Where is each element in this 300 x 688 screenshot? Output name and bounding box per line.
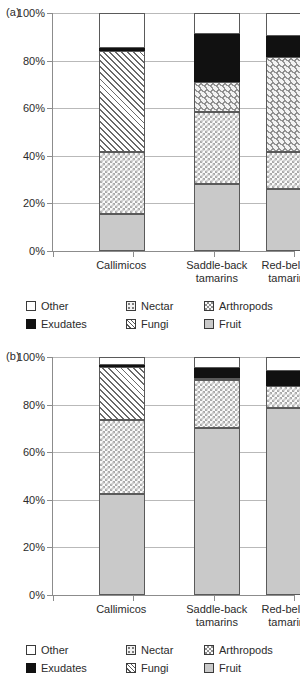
bar-segment-exudates[interactable] — [99, 48, 145, 52]
y-axis-tick — [47, 357, 53, 358]
legend-item-fruit[interactable]: Fruit — [204, 315, 288, 333]
y-axis-tick — [47, 156, 53, 157]
stacked-bar[interactable] — [99, 357, 145, 595]
bar-segment-fungi[interactable] — [99, 51, 145, 152]
legend-item-nectar[interactable]: Nectar — [126, 641, 204, 659]
bar-segment-fungi[interactable] — [99, 367, 145, 421]
x-axis-category-label-line: tamarins — [244, 616, 300, 629]
y-axis-tick-label: 0% — [29, 245, 45, 257]
x-axis-category-label: Callimicos — [76, 259, 166, 272]
legend-b: OtherNectarArthropodsExudatesFungiFruit — [26, 641, 288, 677]
y-axis-tick-label: 80% — [23, 55, 45, 67]
stacked-bar[interactable] — [266, 357, 300, 595]
stacked-bar[interactable] — [194, 357, 240, 595]
gridline — [53, 13, 294, 14]
exudates-swatch — [26, 319, 36, 329]
stacked-bar[interactable] — [266, 13, 300, 251]
legend-item-arthropods[interactable]: Arthropods — [204, 641, 288, 659]
stacked-bar[interactable] — [99, 13, 145, 251]
bar-segment-other[interactable] — [194, 13, 240, 34]
bar-segment-fruit[interactable] — [266, 189, 300, 251]
x-axis-tick — [133, 251, 134, 257]
bar-segment-other[interactable] — [194, 357, 240, 368]
y-axis-tick-label: 60% — [23, 446, 45, 458]
stacked-bar[interactable] — [194, 13, 240, 251]
fungi-swatch — [126, 663, 136, 673]
arthropods-swatch — [204, 645, 214, 655]
y-axis-tick-label: 100% — [17, 7, 45, 19]
legend-item-label: Arthropods — [219, 300, 273, 312]
bar-segment-fruit[interactable] — [99, 214, 145, 251]
x-axis-category-label-line: Red-bellied — [244, 259, 300, 272]
legend-item-label: Arthropods — [219, 644, 273, 656]
nectar-swatch — [126, 645, 136, 655]
fungi-swatch — [126, 319, 136, 329]
bar-segment-arthropods[interactable] — [99, 420, 145, 494]
bar-segment-other[interactable] — [99, 357, 145, 365]
legend-item-label: Other — [41, 300, 69, 312]
bar-segment-exudates[interactable] — [266, 36, 300, 57]
bar-segment-arthropods[interactable] — [266, 386, 300, 409]
x-axis-tick — [294, 251, 295, 257]
legend-item-label: Fruit — [219, 318, 241, 330]
legend-item-label: Exudates — [41, 662, 87, 674]
legend-item-arthropods[interactable]: Arthropods — [204, 297, 288, 315]
fruit-swatch — [204, 663, 214, 673]
bar-segment-arthropods[interactable] — [194, 112, 240, 185]
x-axis-category-label: Red-belliedtamarins — [244, 603, 300, 629]
arthropods-swatch — [204, 301, 214, 311]
bar-segment-other[interactable] — [266, 357, 300, 371]
legend-item-exudates[interactable]: Exudates — [26, 315, 126, 333]
other-swatch — [26, 301, 36, 311]
legend-item-fungi[interactable]: Fungi — [126, 659, 204, 677]
bar-segment-fruit[interactable] — [99, 494, 145, 595]
bar-segment-fruit[interactable] — [194, 428, 240, 595]
legend-item-other[interactable]: Other — [26, 641, 126, 659]
legend-item-exudates[interactable]: Exudates — [26, 659, 126, 677]
legend-item-fruit[interactable]: Fruit — [204, 659, 288, 677]
other-swatch — [26, 645, 36, 655]
bar-segment-other[interactable] — [99, 13, 145, 48]
bar-segment-exudates[interactable] — [266, 371, 300, 385]
y-axis-tick — [47, 500, 53, 501]
y-axis-tick — [47, 13, 53, 14]
plot-area-b: 0%20%40%60%80%100% — [52, 357, 294, 596]
chart-panel-b: (b) 0%20%40%60%80%100% CallimicosSaddle-… — [0, 344, 300, 688]
x-axis-category-label: Red-belliedtamarins — [244, 259, 300, 285]
y-axis-tick-label: 40% — [23, 494, 45, 506]
legend-item-fungi[interactable]: Fungi — [126, 315, 204, 333]
bar-segment-nectar[interactable] — [194, 82, 240, 112]
y-axis-tick-label: 20% — [23, 197, 45, 209]
y-axis-tick-label: 100% — [17, 351, 45, 363]
gridline — [53, 61, 294, 62]
exudates-swatch — [26, 663, 36, 673]
y-axis-tick-label: 80% — [23, 399, 45, 411]
bar-segment-arthropods[interactable] — [194, 380, 240, 429]
bar-segment-exudates[interactable] — [194, 34, 240, 82]
x-axis-tick — [214, 251, 215, 257]
bar-segment-fruit[interactable] — [194, 184, 240, 251]
fruit-swatch — [204, 319, 214, 329]
legend-a: OtherNectarArthropodsExudatesFungiFruit — [26, 297, 288, 333]
gridline — [53, 405, 294, 406]
gridline — [53, 156, 294, 157]
bar-segment-arthropods[interactable] — [266, 152, 300, 189]
legend-item-label: Exudates — [41, 318, 87, 330]
y-axis-tick-label: 60% — [23, 102, 45, 114]
chart-panel-a: (a) 0%20%40%60%80%100% CallimicosSaddle-… — [0, 0, 300, 344]
y-axis-tick-label: 0% — [29, 589, 45, 601]
y-axis-tick — [47, 405, 53, 406]
y-axis-tick — [47, 61, 53, 62]
x-axis-tick — [214, 595, 215, 601]
legend-item-label: Fruit — [219, 662, 241, 674]
bar-segment-arthropods[interactable] — [99, 152, 145, 214]
bar-segment-other[interactable] — [266, 13, 300, 36]
bar-segment-fruit[interactable] — [266, 408, 300, 595]
legend-item-nectar[interactable]: Nectar — [126, 297, 204, 315]
legend-item-label: Nectar — [141, 300, 173, 312]
legend-item-other[interactable]: Other — [26, 297, 126, 315]
nectar-swatch — [126, 301, 136, 311]
x-axis-tick — [294, 595, 295, 601]
bar-segment-nectar[interactable] — [266, 57, 300, 152]
bar-segment-exudates[interactable] — [194, 368, 240, 379]
